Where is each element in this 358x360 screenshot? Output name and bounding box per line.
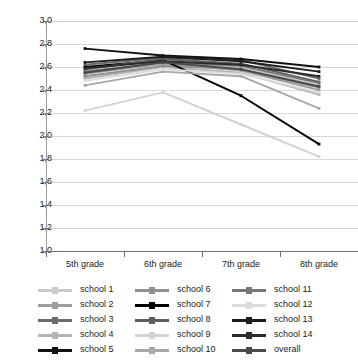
legend-swatch bbox=[232, 319, 266, 322]
legend-marker-icon bbox=[52, 317, 58, 324]
x-tick-mark bbox=[124, 252, 125, 257]
legend-item[interactable]: school 13 bbox=[232, 313, 342, 328]
legend-label: school 11 bbox=[274, 284, 312, 295]
legend-item[interactable]: school 2 bbox=[38, 298, 148, 313]
x-axis-ticks: 5th grade6th grade7th grade8th grade bbox=[0, 0, 358, 272]
legend-marker-icon bbox=[149, 332, 155, 339]
legend-marker-icon bbox=[246, 287, 252, 294]
legend-marker-icon bbox=[52, 302, 58, 309]
legend-marker-icon bbox=[52, 287, 58, 294]
legend-swatch bbox=[135, 304, 169, 307]
x-tick-mark bbox=[202, 252, 203, 257]
legend-label: overall bbox=[274, 344, 301, 355]
legend-item[interactable]: school 10 bbox=[135, 343, 245, 358]
legend-item[interactable]: school 12 bbox=[232, 298, 342, 313]
legend-label: school 2 bbox=[80, 299, 114, 310]
legend-item[interactable]: school 7 bbox=[135, 298, 245, 313]
legend-label: school 1 bbox=[80, 284, 114, 295]
x-axis-label: 5th grade bbox=[46, 259, 124, 269]
legend-item[interactable]: overall bbox=[232, 343, 342, 358]
legend-marker-icon bbox=[246, 332, 252, 339]
legend-label: school 9 bbox=[177, 329, 211, 340]
legend-marker-icon bbox=[149, 287, 155, 294]
legend-label: school 7 bbox=[177, 299, 211, 310]
legend-swatch bbox=[38, 289, 72, 292]
legend-item[interactable]: school 6 bbox=[135, 283, 245, 298]
legend-label: school 5 bbox=[80, 344, 114, 355]
legend-item[interactable]: school 3 bbox=[38, 313, 148, 328]
legend-item[interactable]: school 14 bbox=[232, 328, 342, 343]
legend-marker-icon bbox=[52, 332, 58, 339]
x-axis-label: 7th grade bbox=[202, 259, 280, 269]
legend-marker-icon bbox=[52, 347, 58, 354]
legend-item[interactable]: school 1 bbox=[38, 283, 148, 298]
legend-item[interactable]: school 8 bbox=[135, 313, 245, 328]
legend-swatch bbox=[38, 349, 72, 352]
legend-marker-icon bbox=[149, 317, 155, 324]
legend-swatch bbox=[232, 289, 266, 292]
x-axis-label: 8th grade bbox=[280, 259, 358, 269]
x-tick-mark bbox=[46, 252, 47, 257]
legend-swatch bbox=[135, 289, 169, 292]
legend-label: school 14 bbox=[274, 329, 313, 340]
legend-marker-icon bbox=[246, 317, 252, 324]
legend-swatch bbox=[232, 334, 266, 337]
x-axis-label: 6th grade bbox=[124, 259, 202, 269]
x-tick-mark bbox=[280, 252, 281, 257]
legend-label: school 4 bbox=[80, 329, 114, 340]
legend-label: school 12 bbox=[274, 299, 313, 310]
legend-swatch bbox=[38, 304, 72, 307]
legend-label: school 10 bbox=[177, 344, 216, 355]
chart-figure: 3,02,82,62,42,22,01,81,61,41,21,0 5th gr… bbox=[0, 0, 358, 360]
legend-swatch bbox=[38, 334, 72, 337]
legend-label: school 6 bbox=[177, 284, 211, 295]
legend-marker-icon bbox=[149, 302, 155, 309]
legend-marker-icon bbox=[149, 347, 155, 354]
legend-marker-icon bbox=[246, 302, 252, 309]
legend-marker-icon bbox=[246, 347, 252, 354]
plot-area: 3,02,82,62,42,22,01,81,61,41,21,0 5th gr… bbox=[0, 0, 358, 272]
legend-swatch bbox=[135, 349, 169, 352]
legend-item[interactable]: school 9 bbox=[135, 328, 245, 343]
legend-swatch bbox=[232, 304, 266, 307]
legend-swatch bbox=[38, 319, 72, 322]
legend-label: school 3 bbox=[80, 314, 114, 325]
legend-item[interactable]: school 4 bbox=[38, 328, 148, 343]
legend-label: school 13 bbox=[274, 314, 313, 325]
legend: school 1school 2school 3school 4school 5… bbox=[0, 283, 358, 360]
legend-column: school 1school 2school 3school 4school 5 bbox=[38, 283, 148, 358]
legend-item[interactable]: school 11 bbox=[232, 283, 342, 298]
legend-swatch bbox=[232, 349, 266, 352]
legend-label: school 8 bbox=[177, 314, 211, 325]
legend-swatch bbox=[135, 334, 169, 337]
legend-column: school 11school 12school 13school 14over… bbox=[232, 283, 342, 358]
legend-column: school 6school 7school 8school 9school 1… bbox=[135, 283, 245, 358]
legend-item[interactable]: school 5 bbox=[38, 343, 148, 358]
legend-swatch bbox=[135, 319, 169, 322]
